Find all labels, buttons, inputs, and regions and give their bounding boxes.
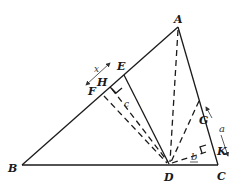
label-g: G	[199, 114, 208, 127]
side-ab	[22, 27, 178, 165]
label-h: H	[96, 76, 108, 89]
right-angle-h	[110, 87, 122, 93]
measure-a: a	[219, 123, 225, 134]
geometry-diagram: A B C D E F G H K x a b c	[0, 0, 239, 189]
label-b: B	[7, 162, 17, 175]
segment-dk	[172, 152, 206, 163]
segment-ad	[170, 30, 178, 162]
measure-c: c	[124, 99, 129, 109]
label-d: D	[163, 171, 174, 184]
measure-b: b	[191, 151, 197, 162]
measure-x: x	[94, 64, 99, 74]
segment-hd	[112, 89, 168, 162]
label-a: A	[173, 13, 183, 26]
measure-x-arrow-2	[98, 63, 110, 74]
label-f: F	[87, 85, 97, 98]
segment-ed	[124, 75, 169, 164]
label-k: K	[216, 145, 227, 158]
segment-fd	[104, 96, 167, 163]
label-c: C	[217, 170, 226, 183]
label-e: E	[116, 60, 126, 73]
side-ca	[178, 27, 218, 165]
